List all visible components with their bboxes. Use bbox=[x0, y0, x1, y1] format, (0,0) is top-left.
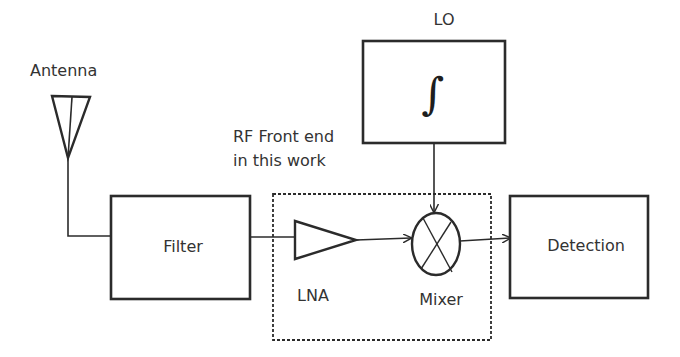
wire-mixer-detection bbox=[460, 238, 510, 241]
mixer-crossed-circle-icon bbox=[412, 213, 460, 275]
integral-icon: ∫ bbox=[422, 69, 445, 119]
lna-label: LNA bbox=[297, 287, 329, 305]
wire-lna-mixer bbox=[356, 238, 411, 240]
amplifier-triangle-icon bbox=[295, 221, 356, 259]
mixer-label: Mixer bbox=[419, 291, 463, 309]
antenna-icon bbox=[52, 96, 90, 158]
diagram-canvas bbox=[0, 0, 680, 357]
detection-label: Detection bbox=[547, 236, 625, 256]
filter-label: Filter bbox=[163, 237, 203, 257]
wire-antenna-filter bbox=[68, 158, 111, 236]
lo-label: LO bbox=[434, 11, 455, 29]
group-label-line1: RF Front end bbox=[233, 128, 334, 146]
group-label-line2: in this work bbox=[233, 152, 326, 170]
antenna-label: Antenna bbox=[30, 62, 97, 80]
rf-front-end-group bbox=[273, 194, 491, 340]
